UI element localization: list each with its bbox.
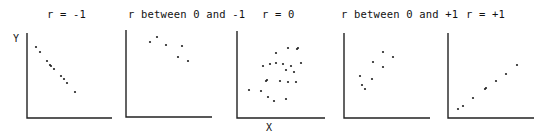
data-point: [60, 75, 62, 77]
data-point: [293, 71, 295, 73]
data-point: [187, 60, 189, 62]
data-point: [275, 52, 277, 54]
data-point: [361, 84, 363, 86]
data-point: [260, 90, 262, 92]
axes: [237, 31, 325, 118]
axes: [27, 33, 112, 118]
data-point: [371, 78, 373, 80]
data-point: [267, 96, 269, 98]
data-point: [372, 61, 374, 63]
data-point: [262, 65, 264, 67]
data-point: [287, 47, 289, 49]
data-point: [364, 88, 366, 90]
scatter-plot-4: [448, 33, 534, 118]
scatter-plot-3: [344, 33, 430, 118]
data-point: [46, 60, 48, 62]
data-point: [495, 80, 497, 82]
data-point: [248, 89, 250, 91]
data-point: [275, 62, 277, 64]
data-point: [287, 81, 289, 83]
data-point: [53, 68, 55, 70]
data-point: [485, 87, 487, 89]
data-point: [285, 69, 287, 71]
data-point: [472, 97, 474, 99]
data-point: [505, 73, 507, 75]
data-point: [382, 66, 384, 68]
axes: [344, 33, 430, 118]
data-point: [359, 75, 361, 77]
axes: [126, 30, 212, 117]
data-point: [457, 108, 459, 110]
data-point: [269, 63, 271, 65]
data-point: [50, 65, 52, 67]
data-point: [279, 80, 281, 82]
data-point: [181, 45, 183, 47]
scatter-plots: [0, 0, 547, 137]
axes: [448, 33, 534, 118]
scatter-plot-1: [126, 30, 212, 117]
scatter-plot-0: [27, 33, 112, 118]
data-point: [296, 48, 298, 50]
data-point: [156, 36, 158, 38]
data-point: [35, 46, 37, 48]
data-point: [266, 79, 268, 81]
data-point: [165, 44, 167, 46]
scatter-plot-2: [237, 31, 325, 118]
data-point: [300, 62, 302, 64]
data-point: [282, 63, 284, 65]
data-point: [177, 56, 179, 58]
data-point: [516, 64, 518, 66]
data-point: [285, 98, 287, 100]
data-point: [462, 105, 464, 107]
data-point: [63, 78, 65, 80]
data-point: [39, 51, 41, 53]
data-point: [295, 81, 297, 83]
data-point: [392, 56, 394, 58]
data-point: [382, 51, 384, 53]
data-point: [66, 82, 68, 84]
data-point: [74, 91, 76, 93]
data-point: [290, 65, 292, 67]
data-point: [273, 100, 275, 102]
data-point: [149, 41, 151, 43]
